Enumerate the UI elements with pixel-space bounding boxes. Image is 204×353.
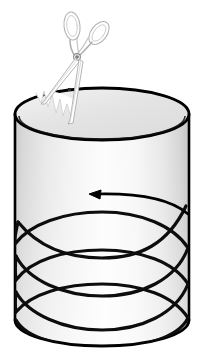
spiral-turns-value: 3.6 <box>0 10 6 15</box>
cut-edge-teeth-value: 6 <box>0 28 3 33</box>
arrow-direction-value: left <box>0 22 6 27</box>
cylinder-body <box>15 88 189 346</box>
scissors-shank-left <box>70 40 75 56</box>
figure-root: Cylinder with helical spiral being cut b… <box>0 0 204 353</box>
figure-title: Cylinder with helical spiral being cut b… <box>0 4 84 9</box>
spiral-direction-value: counterclockwise-viewed-from-top <box>0 16 61 21</box>
scissors-cut-point-marker <box>68 88 71 91</box>
cylinder-helix-illustration: Cylinder with helical spiral being cut b… <box>0 0 204 353</box>
scissors-pivot-screw <box>76 56 79 59</box>
